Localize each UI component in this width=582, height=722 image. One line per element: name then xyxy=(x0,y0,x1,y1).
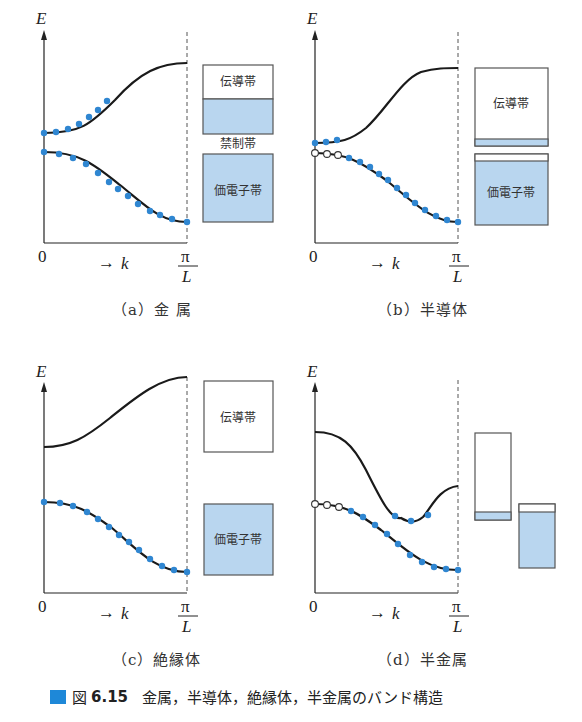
panel-semimetal: E 0 → k π L （d）半金属 xyxy=(291,330,582,670)
pi-label: π xyxy=(181,597,190,616)
figure-prefix: 図 xyxy=(72,686,87,707)
valence-band-label: 価電子帯 xyxy=(214,184,262,198)
valence-band-curve xyxy=(44,152,187,222)
origin-label: 0 xyxy=(309,597,318,616)
valence-band-curve xyxy=(315,153,458,222)
band-diagram-semimetal: E 0 → k π L xyxy=(291,330,582,670)
hole-dots xyxy=(312,150,342,159)
conduction-band-label: 伝導帯 xyxy=(493,97,529,111)
band-diagram-metal: E 0 → k π L 伝導帯 禁制帯 価電子帯 xyxy=(0,0,291,330)
y-axis-arrow-icon xyxy=(312,30,318,40)
k-axis-label: k xyxy=(392,254,400,273)
energy-axis-label: E xyxy=(306,9,318,28)
k-arrow-icon: → xyxy=(98,253,115,272)
figure-number: 6.15 xyxy=(91,688,128,706)
forbidden-band-label: 禁制帯 xyxy=(220,137,256,151)
panel-insulator: E 0 → k π L 伝導帯 価電子帯 （c）絶縁体 xyxy=(0,330,291,670)
caption-marker-icon xyxy=(50,690,66,704)
figure-caption: 図 6.15 金属，半導体，絶縁体，半金属のバンド構造 xyxy=(50,686,443,707)
k-axis-label: k xyxy=(392,604,400,623)
pi-label: π xyxy=(181,247,190,266)
k-arrow-icon: → xyxy=(98,603,115,622)
conduction-electron-pocket xyxy=(475,512,511,520)
valence-hole-pocket xyxy=(519,504,555,512)
L-label: L xyxy=(452,267,462,286)
electron-dots xyxy=(41,98,190,225)
energy-axis-label: E xyxy=(35,9,47,28)
L-label: L xyxy=(181,267,191,286)
valence-band-box xyxy=(519,504,555,568)
conduction-band-label: 伝導帯 xyxy=(220,411,256,425)
excited-electrons-strip xyxy=(475,139,548,146)
origin-label: 0 xyxy=(309,247,318,266)
pi-label: π xyxy=(452,247,461,266)
conduction-band-curve xyxy=(44,63,187,133)
conduction-band-curve xyxy=(315,68,458,143)
conduction-band-curve xyxy=(44,377,187,447)
k-arrow-icon: → xyxy=(369,603,386,622)
origin-label: 0 xyxy=(38,247,47,266)
k-axis-label: k xyxy=(121,254,129,273)
valence-band-label: 価電子帯 xyxy=(487,186,535,200)
band-diagram-semiconductor: E 0 → k π L 伝導帯 価電子帯 xyxy=(291,0,582,330)
y-axis-arrow-icon xyxy=(41,30,47,40)
caption-semiconductor: （b）半導体 xyxy=(377,298,468,319)
electron-dots xyxy=(41,499,190,575)
valence-band-curve xyxy=(44,502,187,572)
hole-dots xyxy=(312,501,343,511)
band-diagram-insulator: E 0 → k π L 伝導帯 価電子帯 xyxy=(0,330,291,670)
k-axis-label: k xyxy=(121,604,129,623)
energy-axis-label: E xyxy=(306,362,318,381)
caption-insulator: （c）絶縁体 xyxy=(112,648,201,669)
L-label: L xyxy=(181,617,191,636)
panel-metal: E 0 → k π L 伝導帯 禁制帯 価電子帯 （a）金 属 xyxy=(0,0,291,330)
caption-semimetal: （d）半金属 xyxy=(377,648,468,669)
y-axis-arrow-icon xyxy=(312,382,318,392)
panel-semiconductor: E 0 → k π L 伝導帯 価電子帯 （b）半導体 xyxy=(291,0,582,330)
figure-title: 金属，半導体，絶縁体，半金属のバンド構造 xyxy=(142,686,443,707)
conduction-band-label: 伝導帯 xyxy=(220,75,256,89)
valence-band-label: 価電子帯 xyxy=(214,533,262,547)
pi-label: π xyxy=(452,597,461,616)
L-label: L xyxy=(452,617,462,636)
energy-axis-label: E xyxy=(35,362,47,381)
origin-label: 0 xyxy=(38,597,47,616)
conduction-band-box xyxy=(475,433,511,520)
electron-dots xyxy=(312,137,461,225)
electron-dots xyxy=(348,508,461,573)
partially-filled-band xyxy=(203,99,273,134)
y-axis-arrow-icon xyxy=(41,382,47,392)
caption-metal: （a）金 属 xyxy=(112,298,192,319)
holes-strip xyxy=(475,154,548,161)
k-arrow-icon: → xyxy=(369,253,386,272)
